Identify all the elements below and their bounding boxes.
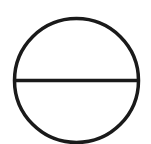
circle-with-diameter-icon — [0, 0, 151, 144]
diagram-canvas — [0, 0, 151, 144]
